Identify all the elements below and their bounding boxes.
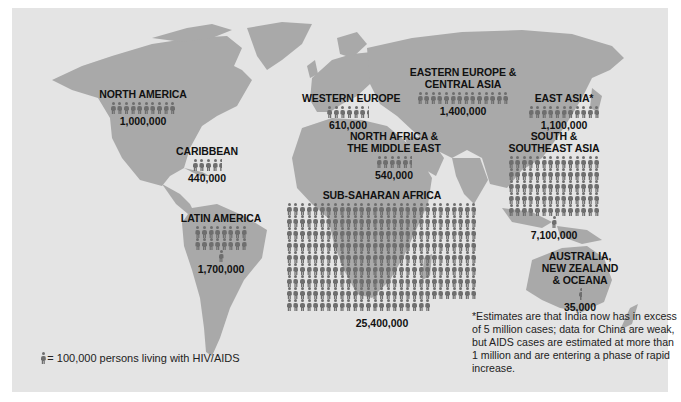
region-name-line2: SOUTHEAST ASIA xyxy=(502,142,606,154)
person-icon xyxy=(385,299,391,311)
person-icon xyxy=(195,226,201,238)
partial-person-icon xyxy=(409,156,412,168)
person-icon xyxy=(445,251,451,263)
person-icon xyxy=(471,239,477,251)
person-icon xyxy=(346,203,352,215)
person-icon xyxy=(445,287,451,299)
person-icon xyxy=(425,275,431,287)
person-icon xyxy=(215,226,221,238)
person-icon xyxy=(418,227,424,239)
person-icon xyxy=(554,204,560,216)
person-icon xyxy=(346,299,352,311)
person-icon xyxy=(541,156,547,168)
person-icon xyxy=(379,239,385,251)
person-icon xyxy=(313,239,319,251)
person-icon xyxy=(476,92,482,104)
person-icon xyxy=(306,203,312,215)
person-icon xyxy=(471,203,477,215)
person-icon xyxy=(359,203,365,215)
person-icon xyxy=(392,215,398,227)
person-icon xyxy=(392,203,398,215)
person-icon xyxy=(299,227,305,239)
figure-row xyxy=(415,92,511,104)
person-icon xyxy=(319,287,325,299)
person-icon xyxy=(594,156,600,168)
person-icon xyxy=(339,239,345,251)
person-icon xyxy=(554,180,560,192)
person-icon xyxy=(431,287,437,299)
person-icon xyxy=(567,180,573,192)
person-icon xyxy=(398,251,404,263)
person-icon xyxy=(445,215,451,227)
person-icon xyxy=(352,263,358,275)
person-icon xyxy=(392,287,398,299)
person-icon xyxy=(438,275,444,287)
person-icon xyxy=(359,227,365,239)
region-sub-saharan-africa: SUB-SAHARAN AFRICA 25,400,000 xyxy=(282,189,482,329)
person-icon xyxy=(208,238,214,250)
person-icon xyxy=(332,215,338,227)
person-icon xyxy=(299,275,305,287)
person-icon xyxy=(392,299,398,311)
person-icon xyxy=(293,299,299,311)
person-icon xyxy=(398,239,404,251)
person-icon xyxy=(372,251,378,263)
person-icon xyxy=(385,263,391,275)
person-icon xyxy=(503,92,509,104)
person-icon xyxy=(458,251,464,263)
person-icon xyxy=(581,192,587,204)
figure-row xyxy=(108,102,178,114)
map-panel: NORTH AMERICA 1,000,000 CARIBBEAN 440,00… xyxy=(12,8,668,392)
person-icon xyxy=(385,239,391,251)
person-icon xyxy=(346,287,352,299)
person-icon xyxy=(398,287,404,299)
person-icon xyxy=(405,215,411,227)
person-icon xyxy=(464,287,470,299)
person-icon xyxy=(458,275,464,287)
person-icon xyxy=(286,227,292,239)
person-icon xyxy=(143,102,149,114)
person-icon xyxy=(581,156,587,168)
person-icon xyxy=(359,215,365,227)
person-icon xyxy=(535,106,541,118)
person-icon xyxy=(431,251,437,263)
person-icon xyxy=(359,275,365,287)
person-icon xyxy=(299,299,305,311)
person-icon xyxy=(286,263,292,275)
person-icon xyxy=(195,238,201,250)
person-icon xyxy=(313,203,319,215)
person-icon xyxy=(431,203,437,215)
person-icon xyxy=(548,106,554,118)
person-icon xyxy=(319,299,325,311)
person-icon xyxy=(202,238,208,250)
person-icon xyxy=(372,203,378,215)
person-icon xyxy=(234,238,240,250)
person-icon xyxy=(574,156,580,168)
person-icon xyxy=(313,251,319,263)
person-icon xyxy=(346,227,352,239)
person-icon xyxy=(405,239,411,251)
person-icon xyxy=(221,238,227,250)
person-icon xyxy=(594,180,600,192)
person-icon xyxy=(385,287,391,299)
person-icon xyxy=(535,156,541,168)
person-icon xyxy=(379,215,385,227)
region-western-europe: WESTERN EUROPE 610,000 xyxy=(302,92,394,131)
person-icon xyxy=(418,287,424,299)
person-icon xyxy=(352,239,358,251)
person-icon xyxy=(332,227,338,239)
person-icon xyxy=(587,106,593,118)
person-icon xyxy=(392,251,398,263)
person-icon xyxy=(293,227,299,239)
person-icon xyxy=(418,203,424,215)
person-icon xyxy=(137,102,143,114)
person-icon xyxy=(471,275,477,287)
person-icon xyxy=(383,156,389,168)
person-icon xyxy=(241,226,247,238)
person-icon xyxy=(392,275,398,287)
person-icon xyxy=(326,215,332,227)
person-icon xyxy=(574,168,580,180)
partial-person-icon xyxy=(219,159,222,171)
person-icon xyxy=(306,275,312,287)
figure-row xyxy=(187,159,227,171)
